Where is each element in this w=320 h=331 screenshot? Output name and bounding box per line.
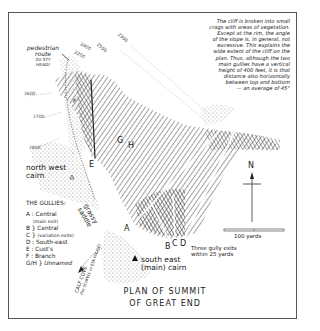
legend-item-d: D : South-east [26,239,74,246]
legend-key: E [26,246,30,252]
north-arrow-label: N [248,161,254,170]
legend-label: Unnamed [44,260,72,266]
legend-key: D [26,239,30,245]
legend-item-b: B } Central [26,225,74,232]
legend-item-gh: G/H } Unnamed [26,260,74,267]
label-line: (main) cairn [141,264,186,272]
map-title: PLAN OF SUMMIT OF GREAT END [115,286,215,310]
gully-label-a: A [124,224,129,233]
three-gully-exits-note: Three gully exits within 25 yards [191,245,237,257]
gully-label-h: H [128,141,134,150]
contour-label-2600: 2600 [24,91,35,96]
contour-label-2700: 2700 [33,114,44,119]
label-line: within 25 yards [191,251,237,257]
legend-key: A [26,211,30,217]
gullies-legend: THE GULLIES: A : Central (main exit) B }… [26,200,74,267]
legend-label: Branch [35,253,55,259]
title-line: PLAN OF SUMMIT [115,286,215,298]
pedestrian-route-label: pedestrian route (to STY HEAD) [27,45,59,67]
legend-label: Central [36,211,57,217]
label-line: cairn [26,172,66,180]
legend-item-a: A : Central [26,211,74,218]
legend-key: B [26,225,30,231]
south-east-cairn-label: south east (main) cairn [141,256,186,272]
gully-label-g: G [117,136,123,145]
legend-label: Cust's [35,246,53,252]
legend-heading: THE GULLIES: [26,200,74,207]
gully-label-c: C [172,239,178,248]
legend-key: F [26,253,29,259]
legend-sub: (variation exits) [37,233,73,238]
legend-label: Central [37,225,58,231]
contour-label-2800: 2800 [29,145,40,150]
legend-item-c: C } (variation exits) [26,232,74,239]
gully-label-b: B [165,242,171,251]
note-line: — an average of 45° [166,85,290,91]
gully-label-e: E [89,160,94,169]
legend-item-f: F : Branch [26,253,74,260]
gully-label-d: D [180,239,186,248]
gully-label-f: F [73,97,76,104]
title-line: OF GREAT END [115,298,215,310]
legend-sub: (main exit) [26,218,74,225]
legend-item-e: E : Cust's [26,246,74,253]
legend-key: C [26,232,30,238]
legend-label: South-east [36,239,67,245]
legend-key: G/H [26,260,37,266]
north-west-cairn-label: north west cairn [26,164,66,180]
label-line: HEAD) [27,62,59,67]
cliff-note: The cliff is broken into small crags wit… [166,18,290,91]
scale-bar-label: 100 yards [234,233,261,239]
